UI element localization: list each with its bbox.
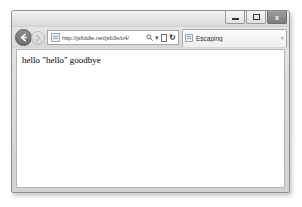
minimize-icon <box>232 18 239 20</box>
site-favicon-icon <box>51 33 60 42</box>
url-text[interactable]: http://jsfiddle.net/jsb3e/o4/ <box>62 35 146 41</box>
tab-favicon-icon <box>185 34 193 42</box>
search-icon[interactable] <box>146 34 153 41</box>
forward-arrow-icon <box>34 34 42 42</box>
window-controls: x <box>225 11 287 24</box>
title-bar: x <box>12 11 289 27</box>
tab-escaping[interactable]: Escaping × <box>182 29 287 47</box>
maximize-icon <box>253 14 260 20</box>
tab-title: Escaping <box>196 35 278 42</box>
close-icon: x <box>275 14 279 21</box>
address-bar[interactable]: http://jsfiddle.net/jsb3e/o4/ ▾ ↻ <box>47 30 179 45</box>
back-arrow-icon <box>19 33 28 42</box>
forward-button[interactable] <box>31 31 45 45</box>
tab-close-icon[interactable]: × <box>278 35 284 41</box>
browser-window: x http://jsfiddle.net/jsb3e/o4/ <box>11 10 290 193</box>
address-bar-tools: ▾ ↻ <box>146 34 178 42</box>
navigation-buttons <box>14 29 45 46</box>
refresh-icon[interactable]: ↻ <box>169 34 176 42</box>
browser-toolbar: http://jsfiddle.net/jsb3e/o4/ ▾ ↻ Escapi… <box>12 27 289 48</box>
back-button[interactable] <box>15 29 32 46</box>
close-button[interactable]: x <box>267 11 287 24</box>
compatibility-view-icon[interactable] <box>161 34 167 42</box>
page-viewport: hello "hello" goodbye <box>16 49 285 188</box>
page-body-text: hello "hello" goodbye <box>22 55 284 65</box>
chevron-down-icon[interactable]: ▾ <box>155 34 159 41</box>
maximize-button[interactable] <box>246 11 266 24</box>
tab-strip: Escaping × <box>182 29 287 47</box>
minimize-button[interactable] <box>225 11 245 24</box>
